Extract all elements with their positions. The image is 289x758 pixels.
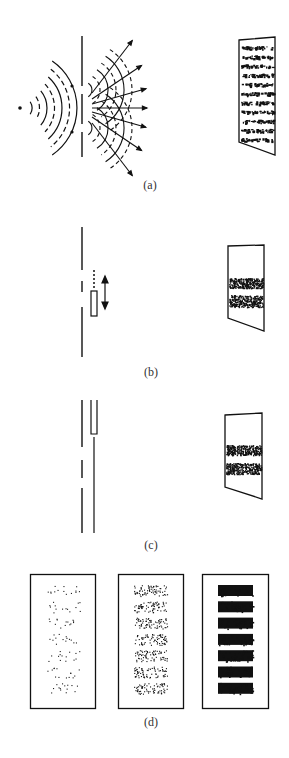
- incoming-wavefronts: [30, 61, 77, 155]
- motion-trail-dots: [93, 270, 95, 288]
- propagation-arrows: [92, 41, 147, 176]
- panel-d: (d): [31, 575, 269, 730]
- panel-c: (c): [82, 400, 262, 552]
- panel-label-a: (a): [143, 178, 156, 192]
- panel-b: (b): [82, 227, 264, 379]
- point-source-dot: [18, 106, 22, 110]
- panel-label-b: (b): [144, 365, 158, 379]
- double-slit-figure: (a) (b): [0, 0, 289, 758]
- slit-bottom-dot: [70, 130, 73, 133]
- buildup-frame-sparse: [31, 575, 96, 709]
- outgoing-wavefronts: [88, 50, 132, 169]
- movable-shutter: [91, 291, 97, 316]
- panel-a: (a): [18, 36, 275, 192]
- panel-label-d: (d): [144, 715, 158, 729]
- buildup-frame-medium: [119, 575, 184, 709]
- fixed-shutter: [91, 400, 97, 533]
- double-arrow-icon: [102, 276, 108, 309]
- slit-top-dot: [70, 84, 73, 87]
- panel-label-c: (c): [144, 538, 157, 552]
